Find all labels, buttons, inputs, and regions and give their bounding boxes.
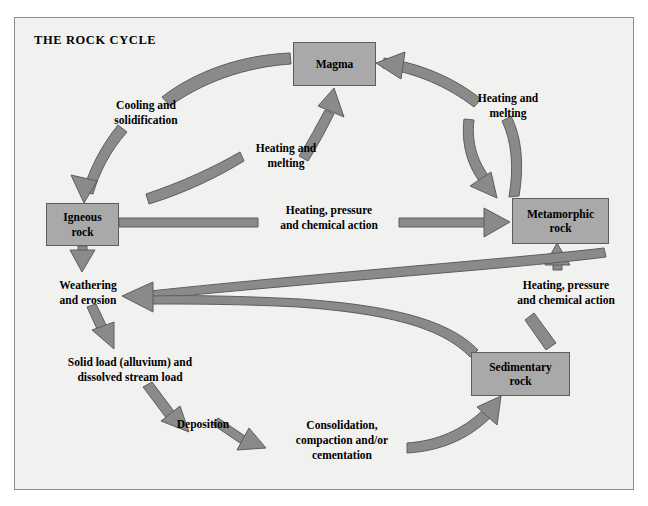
edge-label-cooling-solidification: Cooling and solidification [98,98,194,128]
node-sedimentary-label-line-2: rock [509,374,531,388]
node-metamorphic-label-line-2: rock [549,221,571,235]
arrowhead-igneous-to-metamorphic [484,208,510,237]
node-igneous-label-line-1: Igneous [63,210,101,224]
node-sedimentary-label-line-1: Sedimentary [489,360,552,374]
arrowhead-heating-melting-metamorphic-to-magma [376,52,405,79]
arrow-sedimentary-to-weathering [150,296,478,357]
arrow-consolidation-to-sedimentary [407,410,490,453]
page-title: THE ROCK CYCLE [34,33,156,48]
edge-label-heating-melting-right: Heating and melting [462,91,554,121]
node-metamorphic-label-line-1: Metamorphic [527,207,594,221]
edge-label-consolidation: Consolidation, compaction and/or cementa… [281,418,403,463]
arrow-shaft-label-hpc-to-metamorphic [399,218,486,227]
arrowhead-igneous-to-weathering [70,250,95,272]
arrow-igneous-to-label-heating-melting [146,152,244,204]
edge-label-heating-melting-center: Heating and melting [240,141,332,171]
edge-label-weathering-and-erosion: Weathering and erosion [42,278,134,308]
node-magma[interactable]: Magma [293,42,376,86]
arrow-sedimentary-to-label-hpc [525,313,556,350]
arrow-shaft-igneous-to-label-hpc [119,218,258,227]
edge-label-heating-pressure-chemical-center: Heating, pressure and chemical action [265,203,393,233]
node-igneous-label-line-2: rock [71,225,93,239]
rock-cycle-diagram-page: .arw { fill: #8a8a8a; stroke: #5d5d5d; s… [0,0,648,506]
node-sedimentary-rock[interactable]: Sedimentary rock [471,352,570,396]
edge-label-solid-load: Solid load (alluvium) and dissolved stre… [48,355,212,385]
node-metamorphic-rock[interactable]: Metamorphic rock [512,198,609,244]
node-igneous-rock[interactable]: Igneous rock [46,203,119,246]
arrow-metamorphic-to-label-heating-melting [502,116,522,197]
edge-label-deposition: Deposition [167,417,239,432]
node-magma-label-line-1: Magma [316,57,354,71]
edge-label-heating-pressure-chemical-right: Heating, pressure and chemical action [502,278,630,308]
